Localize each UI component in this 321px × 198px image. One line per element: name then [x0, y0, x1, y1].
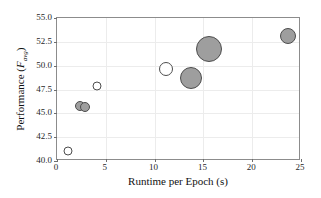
- y-axis-title-prefix: Performance (: [14, 68, 26, 131]
- y-axis-tick: [54, 90, 57, 91]
- data-point-marker: [63, 146, 72, 155]
- plot-area: [56, 17, 300, 160]
- y-axis-title-suffix: ): [14, 48, 26, 52]
- y-axis-title-symbol: F: [14, 61, 26, 68]
- data-point-marker: [180, 67, 202, 89]
- x-axis-tick-label: 0: [39, 162, 73, 172]
- x-axis-tick-label: 15: [185, 162, 219, 172]
- data-points-layer: [57, 18, 299, 159]
- y-axis-tick: [54, 137, 57, 138]
- data-point-marker: [280, 28, 296, 44]
- x-axis-tick-label: 10: [137, 162, 171, 172]
- x-axis-tick-label: 20: [234, 162, 268, 172]
- y-axis-tick: [54, 42, 57, 43]
- x-axis-tick-label: 25: [283, 162, 317, 172]
- x-axis-title: Runtime per Epoch (s): [56, 175, 300, 188]
- scatter-chart-figure: 40.042.545.047.550.052.555.0 0510152025 …: [0, 0, 321, 198]
- y-axis-title: Performance (Favg): [14, 9, 32, 169]
- y-axis-title-subscript: avg: [21, 51, 29, 61]
- x-axis-tick-label: 5: [88, 162, 122, 172]
- data-point-marker: [80, 102, 90, 112]
- y-axis-tick: [54, 18, 57, 19]
- data-point-marker: [93, 81, 102, 90]
- data-point-marker: [196, 36, 222, 62]
- data-point-marker: [159, 62, 173, 76]
- y-axis-tick: [54, 66, 57, 67]
- y-axis-tick: [54, 113, 57, 114]
